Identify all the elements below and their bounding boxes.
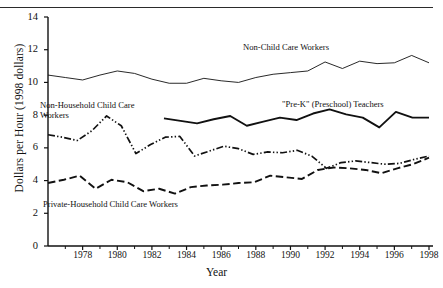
x-tick-label: 1980	[100, 250, 134, 260]
y-tick-label: 12	[16, 44, 38, 54]
y-tick-label: 2	[16, 208, 38, 218]
x-tick-label: 1994	[343, 250, 377, 260]
x-tick-label: 1988	[239, 250, 273, 260]
y-tick-label: 10	[16, 77, 38, 87]
series-paths	[48, 55, 429, 193]
y-tick-label: 4	[16, 175, 38, 185]
y-tick-label: 14	[16, 12, 38, 22]
annotation-private-household-child-care-workers: Private-Household Child Care Workers	[43, 199, 178, 209]
x-tick-label: 1990	[273, 250, 307, 260]
axis-lines	[48, 17, 433, 246]
x-tick-label: 1992	[308, 250, 342, 260]
series-line-pre-k-preschool-teachers	[164, 109, 429, 127]
x-tick-label: 1986	[204, 250, 238, 260]
series-line-non-child-care-workers	[48, 55, 429, 83]
x-tick-label: 1998	[412, 250, 443, 260]
x-tick-label: 1984	[170, 250, 204, 260]
x-tick-label: 1996	[377, 250, 411, 260]
annotation-non-household-child-care-workers: Non-Household Child Care Workers	[40, 100, 135, 120]
x-tick-label: 1978	[66, 250, 100, 260]
y-tick-label: 6	[16, 142, 38, 152]
x-tick-label: 1982	[135, 250, 169, 260]
y-tick-label: 8	[16, 110, 38, 120]
y-tick-label: 0	[16, 241, 38, 251]
annotation-non-child-care-workers: Non-Child Care Workers	[243, 42, 329, 52]
annotation-prek-preschool-teachers: "Pre-K" (Preschool) Teachers	[282, 99, 384, 109]
